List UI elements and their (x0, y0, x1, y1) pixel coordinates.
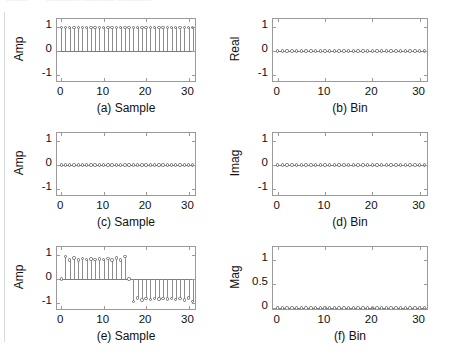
data-point-marker (115, 163, 118, 166)
data-point-marker (290, 163, 293, 166)
data-point-marker (170, 163, 173, 166)
data-point-marker (285, 306, 288, 309)
stem-line (167, 279, 168, 299)
x-tick (325, 192, 326, 195)
data-point-marker (77, 258, 80, 261)
axes-frame-c (56, 132, 196, 196)
stem-line (172, 27, 173, 51)
x-tick-label: 0 (260, 199, 294, 211)
stem-line (74, 27, 75, 51)
data-point-marker (399, 306, 402, 309)
x-tick (372, 133, 373, 136)
data-point-marker (153, 297, 156, 300)
data-point-marker (394, 163, 397, 166)
data-point-marker (81, 163, 84, 166)
data-point-marker (123, 255, 126, 258)
y-tick (57, 189, 60, 190)
data-point-marker (300, 163, 303, 166)
x-tick (278, 78, 279, 81)
x-tick (61, 19, 62, 22)
data-point-marker (68, 163, 71, 166)
data-point-marker (81, 26, 84, 29)
x-tick-label: 10 (307, 199, 341, 211)
data-point-marker (144, 297, 147, 300)
stem-line (172, 279, 173, 298)
y-tick-label: -1 (238, 66, 268, 78)
data-point-marker (170, 26, 173, 29)
stem-line (138, 279, 139, 298)
y-tick (273, 189, 276, 190)
data-point-marker (380, 163, 383, 166)
data-point-marker (337, 49, 340, 52)
x-tick (189, 247, 190, 250)
y-tick-label: -1 (238, 180, 268, 192)
x-tick (278, 192, 279, 195)
y-tick-label: 0 (22, 42, 52, 54)
data-point-marker (404, 306, 407, 309)
data-point-marker (166, 297, 169, 300)
data-point-marker (106, 163, 109, 166)
data-point-marker (85, 26, 88, 29)
stem-line (150, 27, 151, 51)
data-point-marker (132, 26, 135, 29)
stem-line (104, 27, 105, 51)
y-tick (424, 75, 427, 76)
x-tick-label: 30 (402, 85, 436, 97)
stem-line (74, 258, 75, 279)
stem-line (176, 279, 177, 299)
data-point-marker (309, 163, 312, 166)
y-tick (424, 284, 427, 285)
stem-line (108, 27, 109, 51)
y-tick (273, 284, 276, 285)
x-tick-label: 0 (260, 85, 294, 97)
data-point-marker (389, 163, 392, 166)
data-point-marker (375, 306, 378, 309)
y-tick (424, 51, 427, 52)
data-point-marker (404, 163, 407, 166)
y-tick (57, 141, 60, 142)
data-point-marker (60, 163, 63, 166)
stem-line (116, 27, 117, 51)
y-tick (424, 141, 427, 142)
stem-line (82, 259, 83, 279)
y-tick (57, 51, 60, 52)
y-tick-label: 1 (22, 18, 52, 30)
stem-line (184, 27, 185, 51)
x-axis-title-b: (b) Bin (272, 101, 428, 115)
data-point-marker (110, 163, 113, 166)
data-point-marker (385, 163, 388, 166)
data-point-marker (183, 298, 186, 301)
y-tick (192, 51, 195, 52)
x-tick (372, 306, 373, 309)
data-point-marker (333, 306, 336, 309)
plot-area-f (273, 247, 427, 309)
y-tick-label: 1 (238, 132, 268, 144)
data-point-marker (418, 49, 421, 52)
data-point-marker (319, 306, 322, 309)
stem-line (155, 279, 156, 298)
data-point-marker (93, 258, 96, 261)
data-point-marker (304, 49, 307, 52)
x-tick (189, 78, 190, 81)
y-tick (192, 255, 195, 256)
stem-line (189, 279, 190, 298)
stem-line (189, 27, 190, 51)
data-point-marker (157, 163, 160, 166)
y-tick (424, 189, 427, 190)
x-tick (104, 19, 105, 22)
data-point-marker (309, 49, 312, 52)
stem-line (95, 27, 96, 51)
data-point-marker (356, 49, 359, 52)
x-axis-title-e: (e) Sample (56, 329, 196, 343)
data-point-marker (342, 163, 345, 166)
x-tick (146, 133, 147, 136)
y-tick-label: -1 (22, 294, 52, 306)
data-point-marker (144, 26, 147, 29)
data-point-marker (161, 297, 164, 300)
data-point-marker (347, 306, 350, 309)
y-tick (57, 75, 60, 76)
data-point-marker (127, 163, 130, 166)
x-tick-label: 0 (43, 313, 77, 325)
y-tick (192, 27, 195, 28)
axes-frame-a (56, 18, 196, 82)
